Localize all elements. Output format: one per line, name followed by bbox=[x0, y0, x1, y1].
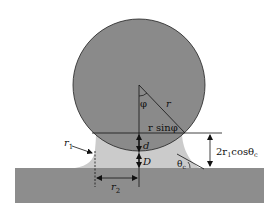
D-label: D bbox=[142, 156, 151, 167]
capillary-bridge-diagram: φ r r sinφ d D r1 r2 θc 2r1cosθc bbox=[0, 0, 276, 215]
height-label: 2r1cosθc bbox=[216, 146, 258, 159]
d-label: d bbox=[143, 140, 149, 151]
diagram-canvas: φ r r sinφ d D r1 r2 θc 2r1cosθc bbox=[0, 0, 276, 215]
r-sin-phi-label: r sinφ bbox=[148, 122, 178, 133]
phi-label: φ bbox=[140, 98, 147, 109]
r1-label: r1 bbox=[64, 137, 73, 151]
substrate bbox=[15, 168, 264, 203]
r1-pointer bbox=[72, 146, 92, 153]
